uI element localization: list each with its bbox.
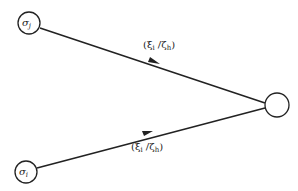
edge-sigma-j-to-target xyxy=(40,28,265,103)
diagram-svg: σj σi (ξi /ζh) (ξi /ζh) xyxy=(0,0,298,191)
arrow-head-icon xyxy=(142,131,153,136)
edge-label-top: (ξi /ζh) xyxy=(143,39,175,52)
edge-label-bottom: (ξi /ζh) xyxy=(131,141,163,154)
edge-sigma-i-to-target xyxy=(37,108,265,168)
arrow-head-icon xyxy=(148,57,160,64)
diagram-canvas: σj σi (ξi /ζh) (ξi /ζh) xyxy=(0,0,298,191)
node-target xyxy=(265,93,289,117)
